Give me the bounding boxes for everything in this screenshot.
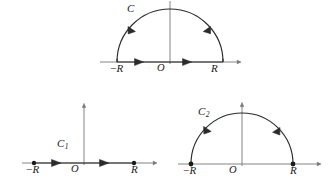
real-axis-arrowhead-top xyxy=(236,60,241,64)
curve-label-c: C xyxy=(127,3,134,14)
real-axis-arrowhead-bottom-right xyxy=(316,162,321,166)
tick-label-r-bottom-left: R xyxy=(131,164,138,175)
imaginary-axis-bottom-left xyxy=(82,103,85,165)
segment-arrow-right-top xyxy=(183,59,192,66)
segment-arrow-left-bottom-left xyxy=(52,159,62,166)
tick-label-r-bottom-right: R xyxy=(290,165,297,176)
figure-page: C −R O R xyxy=(0,0,333,191)
tick-label-minus-r-top: −R xyxy=(110,63,123,74)
arc-arrow-right-bottom-right xyxy=(273,128,280,136)
imaginary-axis-arrowhead-bottom-left xyxy=(82,103,85,107)
arc-arrow-left-top xyxy=(128,27,135,34)
tick-label-minus-r-bottom-left: −R xyxy=(26,164,39,175)
tick-label-minus-r-bottom-right: −R xyxy=(183,165,196,176)
segment-arrow-right-bottom-left xyxy=(100,159,110,166)
curve-label-c1: C1 xyxy=(57,138,68,150)
imaginary-axis-arrowhead-bottom-right xyxy=(240,102,243,106)
real-axis-arrowhead-bottom-left xyxy=(152,161,157,165)
figure-bottom-left-contour: C1 −R O R xyxy=(0,95,170,191)
imaginary-axis-bottom-right xyxy=(240,102,243,166)
arc-arrow-left-bottom-right xyxy=(204,127,212,135)
curve-label-c2: C2 xyxy=(198,106,209,118)
figure-bottom-right-contour: C2 −R O R xyxy=(165,95,333,191)
real-axis-bottom-right xyxy=(178,162,321,166)
figure-top-contour: C −R O R xyxy=(0,0,333,95)
origin-label-top: O xyxy=(157,63,165,74)
origin-label-bottom-left: O xyxy=(71,164,79,175)
arc-arrow-right-top xyxy=(203,27,210,34)
segment-arrow-left-top xyxy=(135,59,144,66)
tick-label-r-top: R xyxy=(211,63,218,74)
origin-label-bottom-right: O xyxy=(229,165,237,176)
